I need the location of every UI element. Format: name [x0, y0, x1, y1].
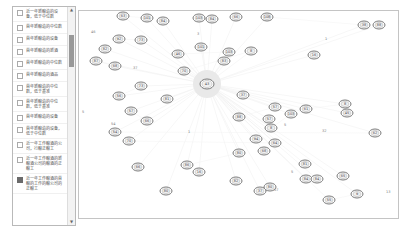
scroll-up-icon[interactable]: ▲: [69, 8, 74, 12]
graph-node[interactable]: 37: [237, 91, 249, 99]
node-label: 80: [164, 189, 168, 193]
graph-node[interactable]: 82: [99, 45, 111, 53]
node-label: 57: [273, 105, 277, 109]
graph-node[interactable]: 8: [245, 47, 257, 55]
graph-node[interactable]: 64: [269, 139, 281, 147]
graph-node[interactable]: 103: [285, 110, 297, 118]
category-checkbox[interactable]: [17, 61, 23, 67]
graph-node[interactable]: 66: [230, 13, 242, 21]
graph-node[interactable]: 65: [337, 172, 349, 180]
graph-node[interactable]: 86: [181, 161, 193, 169]
graph-node[interactable]: 83: [218, 57, 230, 65]
graph-node[interactable]: 55: [323, 196, 335, 204]
category-checkbox[interactable]: [17, 127, 23, 133]
hub-node[interactable]: 43: [200, 79, 214, 89]
category-label: 近一年新酿造的设备，低于中位数: [26, 9, 65, 19]
node-label: 46: [176, 52, 180, 56]
graph-node[interactable]: 92: [113, 35, 125, 43]
category-list-item[interactable]: 首年新酿造的酒品: [13, 70, 67, 82]
node-label: 62: [373, 131, 377, 135]
graph-node[interactable]: 57: [125, 107, 137, 115]
graph-node[interactable]: 87: [90, 57, 102, 65]
category-list-item[interactable]: 首年新酿造的中位数，低于基准: [13, 97, 67, 112]
graph-node[interactable]: 56: [113, 92, 125, 100]
graph-node[interactable]: 68: [109, 62, 121, 70]
graph-node[interactable]: 108: [261, 13, 273, 21]
category-checkbox[interactable]: [17, 177, 23, 183]
category-list-item[interactable]: 近一年新酿造的设备，低于中位数: [13, 7, 67, 22]
category-checkbox[interactable]: [17, 49, 23, 55]
network-graph[interactable]: 6310184103846610838889273828768101461038…: [79, 11, 398, 218]
graph-node[interactable]: 80: [233, 149, 245, 157]
category-list-item[interactable]: 近一年工作酿酒的首酿的工作的酿公司的正酿工: [13, 174, 67, 194]
graph-node[interactable]: 57: [263, 115, 275, 123]
category-checkbox[interactable]: [17, 73, 23, 79]
graph-node[interactable]: 101: [195, 43, 207, 51]
graph-node[interactable]: 81: [161, 95, 173, 103]
graph-node[interactable]: 94: [250, 135, 262, 143]
graph-node[interactable]: 82: [230, 177, 242, 185]
list-scrollbar[interactable]: ▲ ▼: [67, 7, 75, 225]
category-checkbox[interactable]: [17, 10, 23, 16]
graph-node[interactable]: 73: [135, 36, 147, 44]
network-graph-canvas[interactable]: 6310184103846610838889273828768101461038…: [78, 10, 399, 219]
node-label: 80: [268, 185, 272, 189]
graph-node[interactable]: 8: [339, 100, 351, 108]
graph-node[interactable]: 70: [123, 137, 135, 145]
graph-node[interactable]: 70: [178, 67, 190, 75]
graph-node[interactable]: 62: [369, 129, 381, 137]
category-checkbox[interactable]: [17, 142, 23, 148]
graph-node[interactable]: 16: [193, 168, 205, 176]
category-checkbox[interactable]: [17, 25, 23, 31]
edge-weight-label: 5: [82, 110, 84, 114]
graph-node[interactable]: 16: [308, 51, 320, 59]
graph-node[interactable]: 103: [223, 48, 235, 56]
graph-node[interactable]: 101: [141, 14, 153, 22]
graph-node[interactable]: 61: [300, 105, 312, 113]
graph-node[interactable]: 84: [206, 15, 218, 23]
graph-node[interactable]: 84: [300, 175, 312, 183]
graph-node[interactable]: 54: [109, 128, 121, 136]
node-label: 37: [241, 93, 245, 97]
graph-node[interactable]: 63: [117, 12, 129, 20]
category-list-item[interactable]: 近一年工作酿酒的新酿酒公司的酿酒的正酿工: [13, 154, 67, 174]
category-checkbox[interactable]: [17, 115, 23, 121]
node-label: 80: [237, 151, 241, 155]
category-list-item[interactable]: 首年新酿造的中位数，低于基准: [13, 82, 67, 97]
graph-node[interactable]: 81: [299, 160, 311, 168]
category-list-item[interactable]: 首年新酿造的设备: [13, 112, 67, 124]
graph-node[interactable]: 88: [233, 113, 245, 121]
graph-node[interactable]: 73: [135, 82, 147, 90]
graph-node[interactable]: 66: [132, 163, 144, 171]
scroll-down-icon[interactable]: ▼: [69, 220, 74, 224]
graph-node[interactable]: 38: [358, 21, 370, 29]
category-list-item[interactable]: 首年新酿造的设备: [13, 34, 67, 46]
category-list-item[interactable]: 首年新酿造的设备，低于中位数: [13, 124, 67, 139]
graph-node[interactable]: 46: [172, 50, 184, 58]
node-label: 103: [288, 112, 295, 116]
category-list-item[interactable]: 近一年工作酿酒的公司，行酿正酿工: [13, 139, 67, 154]
graph-node[interactable]: 68: [258, 147, 270, 155]
category-checkbox[interactable]: [17, 157, 23, 163]
category-checkbox[interactable]: [17, 85, 23, 91]
graph-node[interactable]: 84: [311, 175, 323, 183]
category-list-item[interactable]: 首年新酿造的中位数: [13, 58, 67, 70]
category-checkbox[interactable]: [17, 100, 23, 106]
graph-node[interactable]: 8: [265, 124, 277, 132]
category-checkbox[interactable]: [17, 37, 23, 43]
node-label: 65: [341, 174, 345, 178]
graph-node[interactable]: 103: [193, 14, 205, 22]
graph-node[interactable]: 66: [141, 117, 153, 125]
graph-node[interactable]: 9: [351, 190, 363, 198]
node-label: 8: [270, 126, 272, 130]
graph-node[interactable]: 45: [341, 109, 353, 117]
graph-node[interactable]: 57: [269, 103, 281, 111]
category-list-item[interactable]: 首年新酿造的新酒: [13, 46, 67, 58]
graph-node[interactable]: 80: [160, 187, 172, 195]
category-list-item[interactable]: 首年新酿造的中位数: [13, 22, 67, 34]
graph-node[interactable]: 84: [157, 17, 169, 25]
scrollbar-thumb[interactable]: [69, 35, 74, 67]
node-label: 94: [254, 137, 259, 141]
graph-node[interactable]: 88: [373, 21, 385, 29]
node-label: 82: [103, 47, 107, 51]
